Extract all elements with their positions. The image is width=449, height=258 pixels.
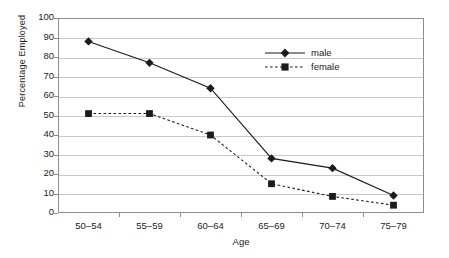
legend-swatch-male <box>264 46 306 60</box>
series-line-female <box>89 114 394 206</box>
x-tick-label: 70–74 <box>303 220 363 231</box>
series-line-male <box>89 41 394 195</box>
chart-figure: Percentage Employed 01020304050607080901… <box>0 0 449 258</box>
data-point-male <box>145 59 153 67</box>
x-axis-label: Age <box>58 236 424 247</box>
y-tick-label: 70 <box>0 70 62 81</box>
legend-label-male: male <box>311 46 332 60</box>
y-tick-label: 80 <box>0 50 62 61</box>
data-point-female <box>207 132 214 139</box>
y-tick-mark <box>54 213 58 214</box>
x-tick-label: 75–79 <box>364 220 424 231</box>
y-tick-label: 10 <box>0 187 62 198</box>
x-tick-mark <box>119 213 120 217</box>
x-tick-label: 60–64 <box>181 220 241 231</box>
data-point-male <box>389 191 397 199</box>
x-tick-label: 55–59 <box>120 220 180 231</box>
y-tick-label: 0 <box>0 206 62 217</box>
data-point-male <box>84 37 92 45</box>
y-tick-label: 100 <box>0 11 62 22</box>
legend-label-female: female <box>311 60 340 74</box>
chart-legend: male female <box>264 46 340 74</box>
data-point-male <box>328 164 336 172</box>
series-layer <box>58 18 424 213</box>
y-tick-label: 40 <box>0 128 62 139</box>
data-point-female <box>390 202 397 209</box>
data-point-female <box>85 110 92 117</box>
x-tick-mark <box>302 213 303 217</box>
legend-swatch-female <box>264 60 306 74</box>
y-tick-label: 60 <box>0 89 62 100</box>
legend-item-female: female <box>264 60 340 74</box>
data-point-female <box>329 193 336 200</box>
x-tick-mark <box>180 213 181 217</box>
x-tick-label: 65–69 <box>242 220 302 231</box>
x-tick-label: 50–54 <box>59 220 119 231</box>
data-point-female <box>146 110 153 117</box>
x-tick-mark <box>363 213 364 217</box>
y-tick-label: 30 <box>0 148 62 159</box>
x-tick-mark <box>241 213 242 217</box>
y-tick-label: 50 <box>0 109 62 120</box>
data-point-female <box>268 180 275 187</box>
y-tick-label: 20 <box>0 167 62 178</box>
y-tick-label: 90 <box>0 31 62 42</box>
legend-item-male: male <box>264 46 340 60</box>
